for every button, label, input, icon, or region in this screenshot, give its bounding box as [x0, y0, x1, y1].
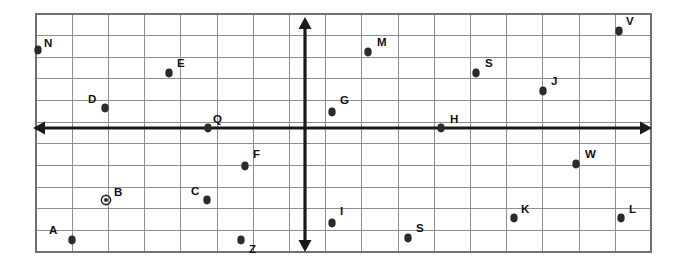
point-label: F: [253, 148, 260, 160]
point-label: S: [416, 222, 424, 234]
point-dot: [204, 124, 211, 133]
y-axis-arrow-down: [299, 240, 312, 252]
grid-border: [36, 14, 651, 252]
point-label: S: [485, 57, 493, 69]
point-marker-g-8: G: [328, 94, 349, 116]
coordinate-plane-canvas: NEDQMSJVGHFWBCIKLAZS: [0, 0, 684, 269]
point-label: W: [585, 148, 596, 160]
point-marker-m-4: M: [364, 36, 386, 56]
point-dot: [241, 162, 248, 171]
point-dot: [539, 87, 546, 96]
point-dot: [364, 48, 371, 57]
point-dot: [510, 214, 517, 223]
point-label: Z: [249, 243, 256, 255]
point-dot: [328, 108, 335, 117]
point-label: E: [177, 57, 185, 69]
point-label: V: [626, 15, 634, 27]
point-dot: [615, 27, 622, 36]
point-marker-s-19: S: [404, 222, 424, 242]
point-marker-e-1: E: [165, 57, 185, 77]
point-label: I: [340, 205, 343, 217]
point-label: M: [377, 36, 387, 48]
point-label: D: [88, 93, 96, 105]
point-marker-f-10: F: [241, 148, 260, 170]
point-dot: [203, 196, 210, 205]
point-dot: [617, 214, 624, 223]
y-axis-arrow-up: [299, 17, 312, 29]
point-dot: [165, 69, 172, 78]
point-label: C: [191, 185, 199, 197]
point-label: H: [450, 113, 458, 125]
coordinate-grid-figure: NEDQMSJVGHFWBCIKLAZS: [0, 0, 684, 269]
point-label: A: [49, 224, 57, 236]
point-dot: [572, 160, 579, 169]
point-marker-d-2: D: [88, 93, 109, 112]
point-label: K: [521, 203, 530, 215]
x-axis-arrow-right: [640, 122, 652, 135]
point-label: B: [114, 186, 122, 198]
point-marker-l-16: L: [617, 203, 636, 222]
point-marker-j-6: J: [539, 75, 557, 95]
point-marker-s-5: S: [472, 57, 493, 77]
point-dot: [328, 219, 335, 228]
point-label: L: [629, 203, 636, 215]
plotted-points: NEDQMSJVGHFWBCIKLAZS: [34, 15, 636, 255]
point-label: N: [44, 37, 52, 49]
point-label: J: [551, 75, 557, 87]
point-marker-n-0: N: [34, 37, 52, 54]
point-dot: [437, 124, 444, 133]
point-dot: [472, 69, 479, 78]
point-dot: [68, 236, 75, 245]
x-axis-arrow-left: [33, 122, 45, 135]
point-dot: [101, 104, 108, 113]
point-marker-k-15: K: [510, 203, 530, 222]
point-marker-v-7: V: [615, 15, 634, 35]
point-label: G: [340, 94, 349, 106]
grid-frame: [36, 14, 651, 252]
point-marker-a-17: A: [49, 224, 76, 244]
point-marker-c-13: C: [191, 185, 211, 204]
point-ring-center: [104, 198, 108, 202]
point-dot: [34, 46, 41, 55]
point-dot: [237, 236, 244, 245]
point-label: Q: [213, 113, 222, 125]
grid-lines: [36, 14, 651, 252]
point-marker-b-12: B: [101, 186, 122, 205]
point-dot: [404, 234, 411, 243]
